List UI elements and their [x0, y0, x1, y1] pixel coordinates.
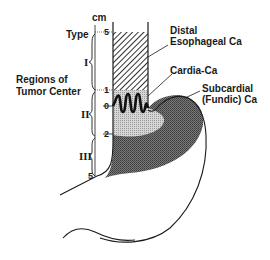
- tick-5-bottom: 5: [88, 171, 93, 182]
- regions-label-line1: Regions of: [16, 74, 68, 85]
- distal-callout-line1: Distal: [170, 25, 197, 36]
- region-III-label: III: [79, 151, 92, 162]
- leader-cardia: [148, 74, 172, 96]
- type-label: Type: [66, 29, 89, 40]
- tick-5-top: 5: [104, 27, 109, 38]
- brace-II: [89, 92, 95, 136]
- distal-esophagus-region: [113, 32, 148, 90]
- tick-0: 0: [104, 101, 109, 112]
- regions-label-line2: Tumor Center: [16, 86, 81, 97]
- lesser-curvature: [60, 140, 113, 195]
- region-I-label: I: [84, 57, 88, 68]
- pylorus-line: [63, 229, 135, 241]
- leader-distal: [148, 45, 168, 57]
- tick-1: 1: [104, 85, 109, 96]
- region-II-label: II: [81, 109, 90, 120]
- brace-I: [89, 34, 95, 90]
- distal-callout-line2: Esophageal Ca: [170, 36, 242, 47]
- subcardial-callout-line1: Subcardial: [202, 83, 253, 94]
- cardia-callout: Cardia-Ca: [170, 65, 217, 76]
- subcardial-callout-line2: (Fundic) Ca: [202, 94, 257, 105]
- axis-unit-label: cm: [92, 12, 106, 23]
- leader-subcardial: [185, 91, 200, 98]
- tick-2: 2: [104, 129, 109, 140]
